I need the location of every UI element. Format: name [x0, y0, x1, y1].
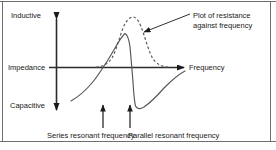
- axis-label-impedance: Impedance: [8, 63, 45, 72]
- annotation-resistance-plot: Plot of resistance against frequency: [193, 11, 252, 31]
- resistance-curve: [96, 17, 168, 67]
- annotation-leader-line: [144, 14, 190, 32]
- label-series-resonant-frequency: Series resonant frequency: [47, 131, 135, 140]
- axis-label-capacitive: Capacitive: [10, 101, 45, 110]
- impedance-curve: [71, 34, 185, 109]
- axis-label-inductive: Inductive: [11, 11, 41, 20]
- annotation-line-2: against frequency: [193, 21, 252, 31]
- annotation-line-1: Plot of resistance: [193, 11, 252, 21]
- axis-label-frequency: Frequency: [189, 63, 224, 72]
- figure-container: Inductive Impedance Capacitive Frequency…: [0, 0, 276, 150]
- label-parallel-resonant-frequency: Parallel resonant frequency: [128, 131, 219, 140]
